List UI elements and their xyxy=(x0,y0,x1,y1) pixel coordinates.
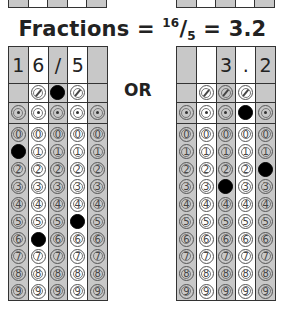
digit-bubble-0[interactable]: 0 xyxy=(50,127,65,142)
decimal-bubble[interactable] xyxy=(179,105,194,120)
digit-bubble-0[interactable]: 0 xyxy=(258,127,273,142)
digit-bubble-2[interactable]: 2 xyxy=(179,162,194,177)
digit-bubble-3[interactable]: 3 xyxy=(199,179,214,194)
digit-bubble-9[interactable]: 9 xyxy=(50,284,65,299)
slash-bubble[interactable] xyxy=(238,85,253,100)
digit-bubble-6[interactable] xyxy=(31,232,46,247)
digit-bubble-1[interactable]: 1 xyxy=(90,144,105,159)
digit-bubble-6[interactable]: 6 xyxy=(199,232,214,247)
digit-bubble-2[interactable] xyxy=(258,162,273,177)
decimal-bubble[interactable] xyxy=(50,105,65,120)
digit-bubble-3[interactable]: 3 xyxy=(258,179,273,194)
digit-bubble-4[interactable]: 4 xyxy=(70,197,85,212)
digit-bubble-3[interactable]: 3 xyxy=(238,179,253,194)
digit-bubble-4[interactable]: 4 xyxy=(50,197,65,212)
digit-bubble-0[interactable]: 0 xyxy=(179,127,194,142)
digit-bubble-5[interactable]: 5 xyxy=(218,214,233,229)
digit-bubble-1[interactable]: 1 xyxy=(70,144,85,159)
digit-bubble-8[interactable]: 8 xyxy=(218,266,233,281)
digit-bubble-1[interactable]: 1 xyxy=(258,144,273,159)
digit-bubble-1[interactable]: 1 xyxy=(179,144,194,159)
digit-bubble-4[interactable]: 4 xyxy=(179,197,194,212)
digit-bubble-0[interactable]: 0 xyxy=(218,127,233,142)
digit-bubble-6[interactable]: 6 xyxy=(179,232,194,247)
decimal-bubble[interactable] xyxy=(11,105,26,120)
digit-bubble-2[interactable]: 2 xyxy=(218,162,233,177)
digit-bubble-8[interactable]: 8 xyxy=(258,266,273,281)
digit-bubble-7[interactable]: 7 xyxy=(238,249,253,264)
digit-bubble-3[interactable]: 3 xyxy=(50,179,65,194)
digit-bubble-7[interactable]: 7 xyxy=(11,249,26,264)
digit-bubble-9[interactable]: 9 xyxy=(218,284,233,299)
digit-bubble-4[interactable]: 4 xyxy=(258,197,273,212)
digit-bubble-4[interactable]: 4 xyxy=(199,197,214,212)
digit-bubble-1[interactable]: 1 xyxy=(50,144,65,159)
digit-bubble-5[interactable]: 5 xyxy=(238,214,253,229)
digit-bubble-8[interactable]: 8 xyxy=(238,266,253,281)
answer-box[interactable]: 2 xyxy=(256,47,275,84)
digit-bubble-7[interactable]: 7 xyxy=(179,249,194,264)
digit-bubble-2[interactable]: 2 xyxy=(11,162,26,177)
digit-bubble-5[interactable]: 5 xyxy=(90,214,105,229)
digit-bubble-5[interactable]: 5 xyxy=(179,214,194,229)
digit-bubble-4[interactable]: 4 xyxy=(90,197,105,212)
digit-bubble-7[interactable]: 7 xyxy=(258,249,273,264)
decimal-bubble[interactable] xyxy=(218,105,233,120)
digit-bubble-9[interactable]: 9 xyxy=(90,284,105,299)
slash-bubble[interactable] xyxy=(218,85,233,100)
digit-bubble-3[interactable] xyxy=(218,179,233,194)
digit-bubble-4[interactable]: 4 xyxy=(238,197,253,212)
answer-box[interactable] xyxy=(197,47,216,84)
digit-bubble-1[interactable]: 1 xyxy=(218,144,233,159)
decimal-bubble[interactable] xyxy=(70,105,85,120)
digit-bubble-8[interactable]: 8 xyxy=(90,266,105,281)
answer-box[interactable] xyxy=(177,47,196,84)
answer-box[interactable]: 1 xyxy=(9,47,28,84)
answer-box[interactable]: 6 xyxy=(29,47,48,84)
digit-bubble-8[interactable]: 8 xyxy=(199,266,214,281)
digit-bubble-6[interactable]: 6 xyxy=(11,232,26,247)
digit-bubble-7[interactable]: 7 xyxy=(90,249,105,264)
answer-box[interactable]: 5 xyxy=(68,47,87,84)
digit-bubble-0[interactable]: 0 xyxy=(70,127,85,142)
digit-bubble-9[interactable]: 9 xyxy=(238,284,253,299)
digit-bubble-3[interactable]: 3 xyxy=(31,179,46,194)
digit-bubble-2[interactable]: 2 xyxy=(199,162,214,177)
digit-bubble-9[interactable]: 9 xyxy=(70,284,85,299)
decimal-bubble[interactable] xyxy=(238,105,253,120)
slash-bubble[interactable] xyxy=(70,85,85,100)
digit-bubble-8[interactable]: 8 xyxy=(50,266,65,281)
digit-bubble-5[interactable]: 5 xyxy=(258,214,273,229)
digit-bubble-6[interactable]: 6 xyxy=(258,232,273,247)
digit-bubble-3[interactable]: 3 xyxy=(90,179,105,194)
digit-bubble-3[interactable]: 3 xyxy=(70,179,85,194)
digit-bubble-4[interactable]: 4 xyxy=(31,197,46,212)
decimal-bubble[interactable] xyxy=(31,105,46,120)
answer-box[interactable]: / xyxy=(49,47,68,84)
digit-bubble-6[interactable]: 6 xyxy=(70,232,85,247)
digit-bubble-6[interactable]: 6 xyxy=(50,232,65,247)
digit-bubble-5[interactable] xyxy=(70,214,85,229)
decimal-bubble[interactable] xyxy=(90,105,105,120)
digit-bubble-9[interactable]: 9 xyxy=(199,284,214,299)
digit-bubble-0[interactable]: 0 xyxy=(90,127,105,142)
digit-bubble-9[interactable]: 9 xyxy=(179,284,194,299)
digit-bubble-6[interactable]: 6 xyxy=(238,232,253,247)
digit-bubble-7[interactable]: 7 xyxy=(218,249,233,264)
digit-bubble-0[interactable]: 0 xyxy=(31,127,46,142)
digit-bubble-2[interactable]: 2 xyxy=(90,162,105,177)
digit-bubble-1[interactable]: 1 xyxy=(199,144,214,159)
digit-bubble-2[interactable]: 2 xyxy=(70,162,85,177)
answer-box[interactable]: 3 xyxy=(217,47,236,84)
digit-bubble-0[interactable]: 0 xyxy=(238,127,253,142)
digit-bubble-8[interactable]: 8 xyxy=(70,266,85,281)
digit-bubble-8[interactable]: 8 xyxy=(11,266,26,281)
slash-bubble[interactable] xyxy=(199,85,214,100)
slash-bubble[interactable] xyxy=(31,85,46,100)
digit-bubble-3[interactable]: 3 xyxy=(11,179,26,194)
digit-bubble-6[interactable]: 6 xyxy=(218,232,233,247)
digit-bubble-4[interactable]: 4 xyxy=(218,197,233,212)
digit-bubble-7[interactable]: 7 xyxy=(31,249,46,264)
digit-bubble-1[interactable]: 1 xyxy=(238,144,253,159)
digit-bubble-2[interactable]: 2 xyxy=(50,162,65,177)
